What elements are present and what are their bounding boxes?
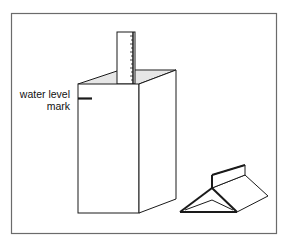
tall-box xyxy=(78,70,176,213)
water-level-label-line2: mark xyxy=(20,100,70,112)
water-level-label: water level mark xyxy=(20,88,70,112)
ruler xyxy=(117,32,135,84)
diagram-canvas xyxy=(0,0,288,244)
folded-tent xyxy=(180,165,268,212)
water-level-label-line1: water level xyxy=(20,88,70,100)
